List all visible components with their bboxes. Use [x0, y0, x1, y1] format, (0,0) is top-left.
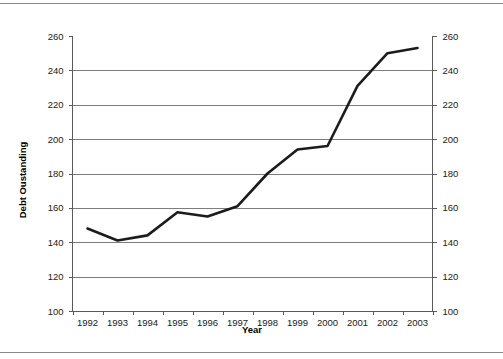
y-axis-left-tick-260: 260 [48, 31, 64, 42]
y-axis-right-tick-120: 120 [443, 271, 459, 282]
line-chart: 260240220200180160140120100 260240220200… [0, 0, 503, 359]
x-axis-tick-2003: 2003 [407, 317, 428, 328]
x-axis-tick-1996: 1996 [197, 317, 218, 328]
y-axis-left-tick-200: 200 [48, 134, 64, 145]
y-axis-left-tick-140: 140 [48, 237, 64, 248]
y-axis-left-tick-160: 160 [48, 202, 64, 213]
y-axis-title: Debt Oustanding [17, 142, 28, 219]
x-axis-tick-2002: 2002 [377, 317, 398, 328]
x-axis-tick-1994: 1994 [137, 317, 158, 328]
chart-page: 260240220200180160140120100 260240220200… [0, 0, 503, 359]
y-axis-right-tick-200: 200 [443, 134, 459, 145]
gridlines [73, 71, 433, 278]
x-axis-tick-2001: 2001 [347, 317, 368, 328]
y-axis-left-tick-marks [69, 37, 73, 312]
y-axis-left-tick-220: 220 [48, 99, 64, 110]
y-axis-right-tick-100: 100 [443, 306, 459, 317]
x-axis-title: Year [242, 324, 262, 335]
y-axis-right-tick-140: 140 [443, 237, 459, 248]
y-axis-right-tick-160: 160 [443, 202, 459, 213]
x-axis-tick-1992: 1992 [77, 317, 98, 328]
y-axis-left-tick-labels: 260240220200180160140120100 [48, 31, 64, 317]
y-axis-left-tick-240: 240 [48, 65, 64, 76]
debt-outstanding-line [88, 48, 418, 241]
y-axis-right-tick-labels: 260240220200180160140120100 [443, 31, 459, 317]
x-axis-tick-1993: 1993 [107, 317, 128, 328]
x-axis-tick-1995: 1995 [167, 317, 188, 328]
y-axis-left-tick-180: 180 [48, 168, 64, 179]
y-axis-right-tick-260: 260 [443, 31, 459, 42]
y-axis-right-tick-180: 180 [443, 168, 459, 179]
x-axis-tick-1999: 1999 [287, 317, 308, 328]
y-axis-right-tick-marks [433, 37, 437, 312]
y-axis-left-tick-100: 100 [48, 306, 64, 317]
y-axis-left-tick-120: 120 [48, 271, 64, 282]
x-axis-tick-2000: 2000 [317, 317, 338, 328]
y-axis-right-tick-240: 240 [443, 65, 459, 76]
y-axis-right-tick-220: 220 [443, 99, 459, 110]
